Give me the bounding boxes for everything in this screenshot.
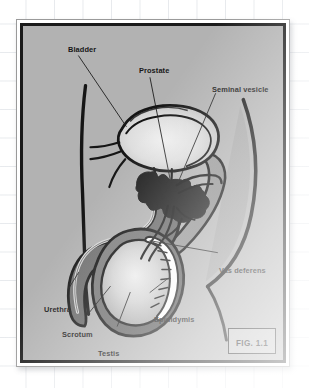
label-epididymis: Epididymis — [154, 315, 194, 324]
figure-panel: Bladder Prostate Seminal vesicle Vas def… — [20, 23, 286, 363]
page-background: Bladder Prostate Seminal vesicle Vas def… — [0, 0, 309, 388]
label-scrotum: Scrotum — [62, 330, 93, 339]
label-testis: Testis — [98, 349, 119, 358]
figure-caption-text: FIG. 1.1 — [236, 339, 268, 348]
figure-caption-box: FIG. 1.1 — [228, 328, 276, 354]
label-bladder: Bladder — [68, 45, 96, 54]
label-seminal-vesicle: Seminal vesicle — [212, 85, 269, 94]
figure-frame: Bladder Prostate Seminal vesicle Vas def… — [16, 19, 290, 367]
label-prostate: Prostate — [139, 66, 169, 75]
label-vas-deferens: Vas deferens — [219, 266, 266, 275]
label-urethra: Urethra — [44, 305, 71, 314]
